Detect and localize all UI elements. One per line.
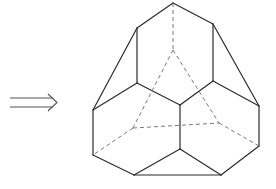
edge-LR-BR bbox=[221, 146, 259, 175]
edge-T-UR bbox=[173, 3, 213, 24]
edge-CL-BR bbox=[180, 149, 221, 175]
hidden-edge-H_left-H_right bbox=[133, 123, 219, 128]
edge-T-UL bbox=[137, 3, 173, 28]
edge-ML-C bbox=[137, 83, 180, 105]
hidden-edge-H_right-LR bbox=[219, 123, 259, 146]
hidden-edge-H_top-H_left bbox=[133, 50, 173, 128]
implication-arrow-icon bbox=[10, 94, 57, 111]
edge-LL-BL bbox=[93, 155, 134, 175]
hidden-edge-H_left-LL bbox=[93, 128, 133, 155]
polyhedron-diagram bbox=[0, 0, 276, 189]
hidden-edges bbox=[93, 3, 259, 155]
edge-UL-OL bbox=[93, 28, 137, 110]
visible-edges bbox=[93, 3, 259, 175]
edge-CL-BL bbox=[134, 149, 180, 175]
edge-MR-C bbox=[180, 81, 213, 105]
